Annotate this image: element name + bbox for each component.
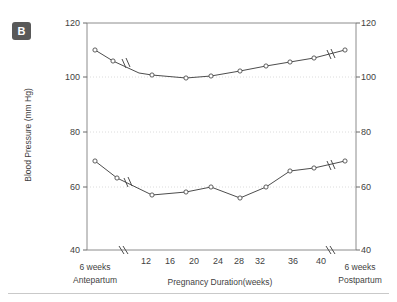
series-systolic bbox=[93, 48, 347, 80]
plot-area bbox=[0, 0, 397, 302]
figure-bottom-rule bbox=[8, 293, 389, 294]
figure-panel-b: B Blood Pressure (mm Hg) 120 100 80 60 4… bbox=[0, 0, 397, 302]
series-diastolic bbox=[93, 159, 347, 200]
gridlines bbox=[87, 77, 356, 187]
